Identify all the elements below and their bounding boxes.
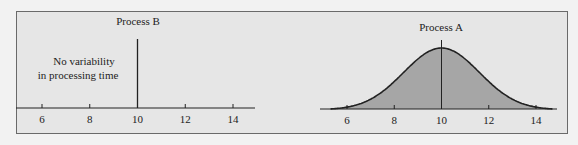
x-axis-process-b: 68101214 bbox=[16, 39, 255, 125]
x-tick-label: 8 bbox=[87, 113, 93, 125]
chart-canvas: Process B No variability in processing t… bbox=[0, 0, 578, 145]
x-tick-label: 6 bbox=[344, 114, 350, 126]
x-tick-label: 10 bbox=[436, 114, 448, 126]
x-axis-process-a: 68101214 bbox=[320, 40, 557, 126]
x-tick-label: 12 bbox=[180, 113, 191, 125]
x-tick-label: 8 bbox=[392, 114, 398, 126]
x-tick-label: 12 bbox=[483, 114, 494, 126]
x-tick-label: 14 bbox=[531, 114, 543, 126]
panel-process-b: Process B No variability in processing t… bbox=[16, 15, 255, 125]
x-tick-label: 6 bbox=[39, 113, 45, 125]
annotation-line-2: in processing time bbox=[38, 69, 119, 81]
title-process-a: Process A bbox=[419, 21, 463, 33]
x-tick-label: 10 bbox=[132, 113, 144, 125]
title-process-b: Process B bbox=[116, 15, 160, 27]
annotation-line-1: No variability bbox=[53, 55, 115, 67]
panel-process-a: Process A 68101214 bbox=[320, 21, 557, 126]
x-tick-label: 14 bbox=[228, 113, 240, 125]
